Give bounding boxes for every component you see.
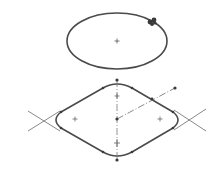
point-tangent: [102, 151, 105, 154]
sketch-canvas[interactable]: [0, 0, 220, 174]
sketch-points[interactable]: [60, 78, 177, 161]
left-intersection-lines[interactable]: [28, 111, 60, 131]
point-tangent: [172, 127, 175, 130]
plus-icon: [73, 117, 78, 122]
plus-icon: [114, 139, 120, 147]
plus-icon: [158, 117, 163, 122]
point-tangent: [60, 127, 63, 130]
point-tangent: [60, 111, 63, 114]
point-bottom: [115, 158, 118, 161]
point-tangent: [102, 87, 105, 90]
point-top: [115, 78, 118, 81]
plus-icon: [115, 94, 120, 99]
point-tangent: [131, 87, 134, 90]
point-tangent: [172, 111, 175, 114]
point-line-end: [173, 86, 176, 89]
point-edge-intersection: [151, 98, 154, 101]
point-tangent: [131, 151, 134, 154]
point-center: [115, 117, 118, 120]
ellipse-center-plus-icon: [115, 39, 120, 44]
diagonal-construction-line[interactable]: [117, 88, 175, 119]
